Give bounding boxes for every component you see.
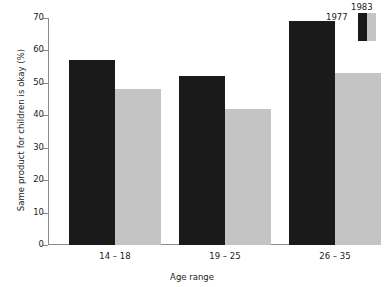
plot-area: 010203040506070 — [48, 18, 378, 245]
legend-swatches — [358, 13, 377, 41]
legend-label-1983: 1983 — [351, 2, 373, 12]
bars-layer — [48, 18, 378, 245]
y-axis-tick-label: 30 — [33, 142, 44, 152]
y-axis-tick-label: 10 — [33, 207, 44, 217]
y-axis-tick-label: 50 — [33, 77, 44, 87]
y-axis-tick-label: 70 — [33, 12, 44, 22]
legend: 1983 1977 — [330, 2, 384, 46]
legend-label-1977: 1977 — [326, 12, 348, 22]
legend-swatch-1983 — [367, 13, 376, 41]
x-axis-tick-label: 19 – 25 — [209, 251, 240, 261]
x-axis-title: Age range — [0, 272, 384, 282]
bar-1983-14–18 — [115, 89, 161, 245]
bar-chart: Same product for children is okay (%) 01… — [0, 0, 384, 287]
y-axis-tick-label: 20 — [33, 174, 44, 184]
y-axis-tick-label: 40 — [33, 109, 44, 119]
x-axis-tick-label: 14 – 18 — [99, 251, 130, 261]
bar-1983-19–25 — [225, 109, 271, 245]
y-axis-title: Same product for children is okay (%) — [16, 35, 26, 225]
bar-1983-26–35 — [335, 73, 381, 245]
bar-1977-14–18 — [69, 60, 115, 245]
bar-1977-19–25 — [179, 76, 225, 245]
x-axis-tick-label: 26 – 35 — [319, 251, 350, 261]
y-axis-tick-label: 0 — [39, 239, 44, 249]
legend-swatch-1977 — [358, 13, 367, 41]
bar-1977-26–35 — [289, 21, 335, 245]
y-axis-tick-label: 60 — [33, 44, 44, 54]
